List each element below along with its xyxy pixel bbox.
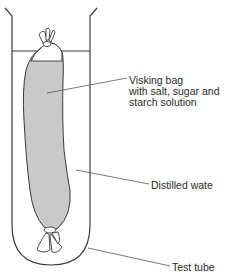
osmosis-diagram: [0, 0, 226, 275]
label-visking-bag: Visking bag with salt, sugar and starch …: [129, 75, 219, 108]
bottom-knot: [37, 227, 62, 252]
leader-tube: [88, 248, 170, 266]
label-test-tube: Test tube: [172, 262, 215, 273]
label-visking-line3: starch solution: [129, 97, 219, 108]
visking-bag: [23, 43, 70, 230]
label-distilled-water: Distilled wate: [151, 180, 213, 191]
leader-water: [76, 170, 149, 184]
